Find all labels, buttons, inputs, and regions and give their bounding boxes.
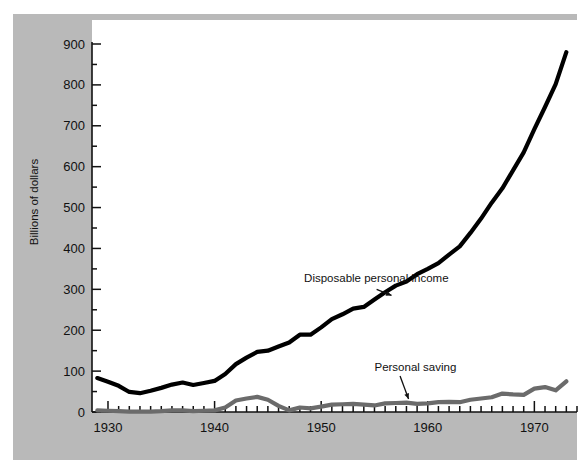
svg-text:700: 700: [63, 118, 85, 133]
y-axis-ticks: 0100200300400500600700800900: [63, 37, 101, 420]
svg-text:1960: 1960: [413, 420, 442, 435]
data-series: [97, 52, 566, 411]
svg-text:1950: 1950: [307, 420, 336, 435]
svg-text:100: 100: [63, 364, 85, 379]
svg-text:300: 300: [63, 282, 85, 297]
svg-text:Disposable personal income: Disposable personal income: [304, 272, 448, 284]
svg-text:900: 900: [63, 37, 85, 52]
chart-canvas: 0100200300400500600700800900 19301940195…: [0, 0, 582, 467]
svg-text:400: 400: [63, 241, 85, 256]
svg-text:0: 0: [78, 405, 85, 420]
svg-text:600: 600: [63, 159, 85, 174]
series-annotations: Disposable personal incomePersonal savin…: [304, 272, 456, 399]
svg-text:Personal saving: Personal saving: [374, 361, 456, 373]
svg-text:1930: 1930: [94, 420, 123, 435]
svg-text:500: 500: [63, 200, 85, 215]
svg-text:1940: 1940: [200, 420, 229, 435]
chart-screenshot: Billions of dollars 01002003004005006007…: [0, 0, 582, 467]
svg-text:800: 800: [63, 77, 85, 92]
svg-text:200: 200: [63, 323, 85, 338]
svg-text:1970: 1970: [520, 420, 549, 435]
axis-lines: [92, 42, 577, 412]
